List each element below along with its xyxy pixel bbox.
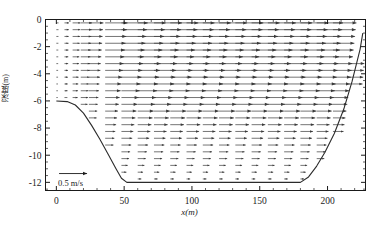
svg-text:200: 200 <box>320 196 335 206</box>
plot-canvas: 0501001502000-2-4-6-8-10-12 <box>0 0 379 228</box>
svg-text:0: 0 <box>54 196 59 206</box>
svg-text:-2: -2 <box>34 42 42 52</box>
svg-text:-10: -10 <box>29 151 42 161</box>
svg-text:100: 100 <box>185 196 200 206</box>
svg-text:-12: -12 <box>29 178 42 188</box>
scale-arrow-icon <box>59 172 87 176</box>
scale-arrow-label: 0.5 m/s <box>58 178 83 188</box>
svg-text:-6: -6 <box>34 96 42 106</box>
bed-profile-line <box>56 33 362 182</box>
y-axis-label: 深度(m) <box>1 74 15 102</box>
x-axis-label: x(m) <box>0 207 379 217</box>
svg-text:0: 0 <box>37 15 42 25</box>
svg-text:-8: -8 <box>34 123 42 133</box>
svg-text:-4: -4 <box>34 69 42 79</box>
velocity-vector-figure: 深度(m) x(m) 0.5 m/s 0501001502000-2-4-6-8… <box>0 0 379 228</box>
svg-text:150: 150 <box>253 196 268 206</box>
svg-text:50: 50 <box>119 196 129 206</box>
velocity-arrow-layer <box>56 21 364 180</box>
